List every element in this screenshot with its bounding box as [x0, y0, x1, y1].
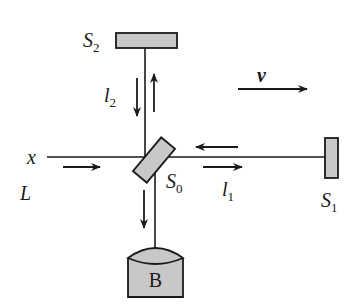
label-source-l: L [19, 182, 31, 204]
interferometer-diagram: S2 l2 v x L S0 l1 S1 B [0, 0, 360, 304]
label-s0: S0 [166, 170, 183, 196]
label-l1: l1 [222, 178, 234, 204]
label-detector-b: B [149, 269, 162, 291]
label-velocity: v [257, 64, 267, 86]
label-s2: S2 [83, 29, 100, 55]
label-l2: l2 [104, 84, 116, 110]
label-axis-x: x [26, 146, 36, 168]
mirror-s1 [325, 138, 338, 178]
mirror-s2 [116, 33, 177, 48]
label-s1: S1 [321, 189, 338, 215]
